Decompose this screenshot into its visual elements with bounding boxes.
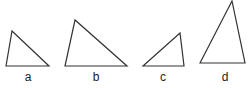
triangle-c-label: c <box>160 70 166 84</box>
triangle-b-label: b <box>93 70 100 84</box>
triangle-c <box>143 33 184 66</box>
triangle-d-label: d <box>222 70 229 84</box>
triangle-a <box>6 31 49 66</box>
triangle-b <box>65 20 127 66</box>
triangles-diagram: a b c d <box>0 0 250 88</box>
triangle-c-group: c <box>143 33 184 84</box>
triangle-d <box>200 1 245 63</box>
triangle-a-group: a <box>6 31 49 84</box>
triangle-a-label: a <box>25 70 32 84</box>
triangle-d-group: d <box>200 1 245 84</box>
triangle-b-group: b <box>65 20 127 84</box>
